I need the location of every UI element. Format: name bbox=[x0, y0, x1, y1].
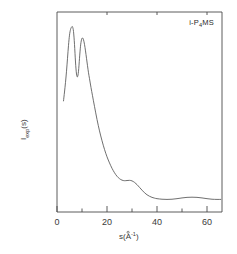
x-axis-title-close: ) bbox=[136, 232, 139, 241]
x-axis-title: s(A-1) bbox=[119, 231, 139, 241]
sample-label-group: i-P4MS bbox=[189, 18, 214, 28]
data-series-i-p4ms bbox=[64, 26, 221, 199]
sample-label-suffix: MS bbox=[202, 18, 214, 27]
y-axis-title-main-b: (s) bbox=[19, 119, 28, 129]
x-tick-label-0: 0 bbox=[54, 217, 59, 227]
chart-canvas: 0 20 40 60 s(A-1) Iexp(s) i-P4MS bbox=[0, 0, 237, 254]
svg-text:Iexp(s): Iexp(s) bbox=[19, 119, 30, 140]
x-axis-minor-ticks bbox=[82, 209, 182, 213]
plot-frame bbox=[57, 12, 222, 212]
figure-container: 0 20 40 60 s(A-1) Iexp(s) i-P4MS bbox=[0, 0, 237, 254]
x-tick-label-20: 20 bbox=[102, 217, 112, 227]
x-tick-label-40: 40 bbox=[152, 217, 162, 227]
x-tick-label-60: 60 bbox=[202, 217, 212, 227]
x-axis-title-main: s(A bbox=[119, 232, 132, 241]
y-axis-title-subscript: exp bbox=[24, 129, 30, 138]
svg-text:i-P4MS: i-P4MS bbox=[189, 18, 214, 28]
y-axis-title: Iexp(s) bbox=[19, 119, 30, 140]
sample-label-prefix: i-P bbox=[189, 18, 199, 27]
